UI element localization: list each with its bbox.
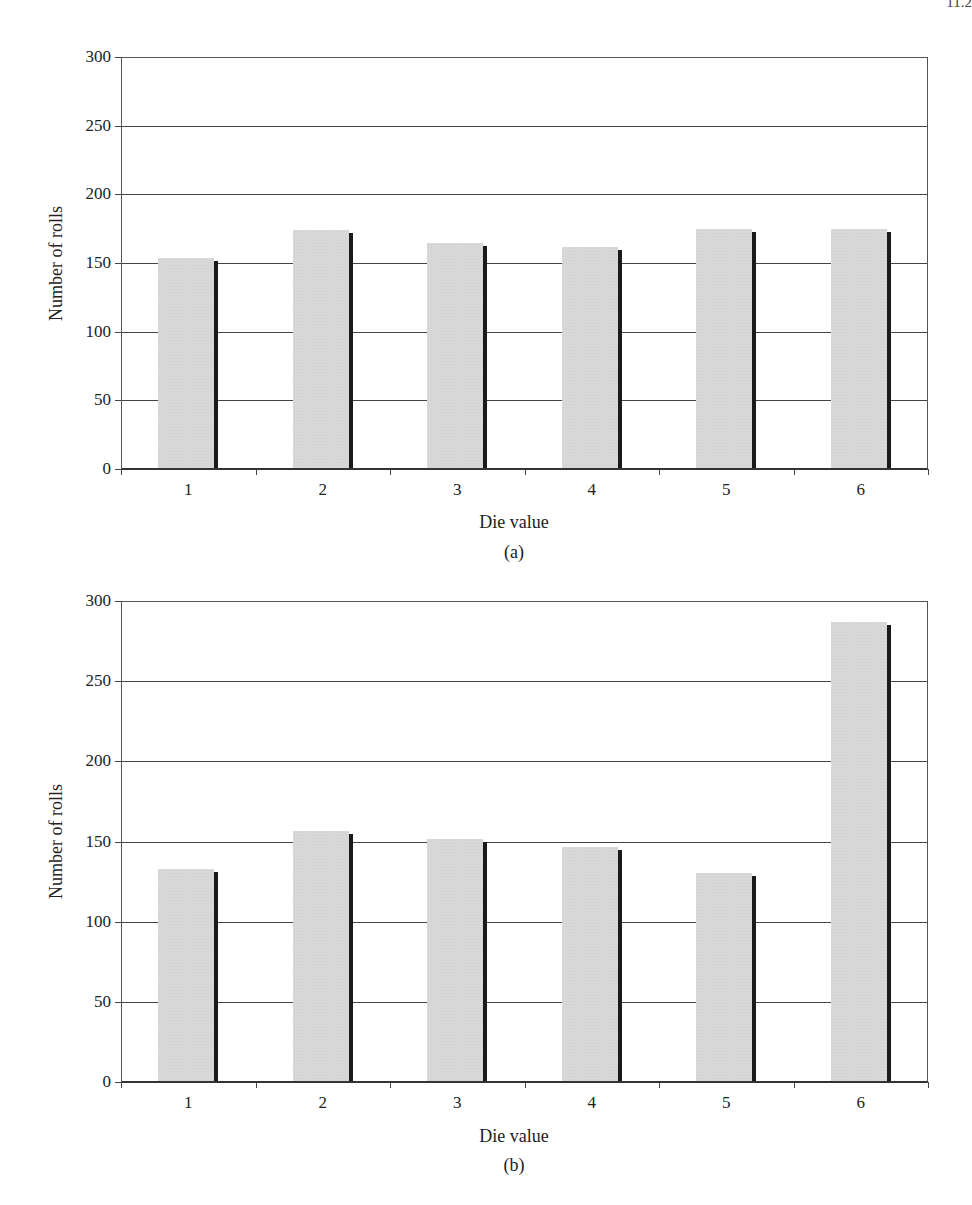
x-tick-label: 5 [706, 1093, 746, 1113]
y-tick [115, 922, 121, 923]
bar-shadow [752, 876, 756, 1081]
y-tick [115, 601, 121, 602]
bar-shadow [349, 834, 353, 1081]
bar-3 [427, 839, 483, 1081]
gridline [122, 922, 927, 923]
x-axis-title: Die value [0, 1126, 968, 1147]
panel-caption: (b) [0, 1155, 968, 1176]
y-tick [115, 681, 121, 682]
bar-shadow [887, 625, 891, 1081]
x-tick-label: 1 [168, 1093, 208, 1113]
x-tick [928, 1082, 929, 1088]
x-tick-label: 2 [303, 1093, 343, 1113]
bar-6 [831, 622, 887, 1081]
x-tick [256, 1082, 257, 1088]
bar-shadow [618, 850, 622, 1081]
gridline [122, 761, 927, 762]
x-tick [794, 1082, 795, 1088]
y-tick [115, 842, 121, 843]
bar-shadow [483, 842, 487, 1081]
y-tick [115, 1002, 121, 1003]
bar-2 [293, 831, 349, 1081]
y-tick-label: 0 [51, 1073, 111, 1090]
bar-5 [696, 873, 752, 1081]
x-tick-label: 4 [572, 1093, 612, 1113]
x-tick [659, 1082, 660, 1088]
x-tick [525, 1082, 526, 1088]
y-tick-label: 300 [51, 592, 111, 609]
bar-1 [158, 869, 214, 1081]
y-tick-label: 50 [51, 993, 111, 1010]
gridline [122, 842, 927, 843]
gridline [122, 681, 927, 682]
x-tick [121, 1082, 122, 1088]
bar-shadow [214, 872, 218, 1081]
x-tick [390, 1082, 391, 1088]
y-tick [115, 761, 121, 762]
y-axis-title: Number of rolls [46, 742, 67, 942]
y-tick-label: 250 [51, 672, 111, 689]
x-tick-label: 6 [841, 1093, 881, 1113]
gridline [122, 1002, 927, 1003]
plot-area [121, 601, 928, 1083]
x-tick-label: 3 [437, 1093, 477, 1113]
bar-4 [562, 847, 618, 1081]
